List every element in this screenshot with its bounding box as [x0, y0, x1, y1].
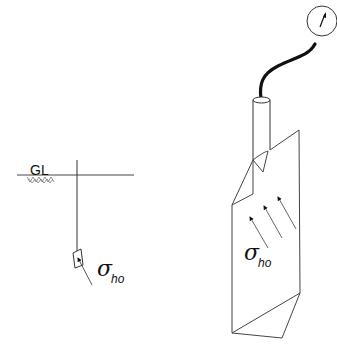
diagram-canvas — [0, 0, 337, 348]
pressure-gauge-icon — [307, 6, 337, 36]
sigma-subscript: ho — [111, 272, 124, 286]
sigma-symbol: σ — [244, 240, 259, 265]
cable — [260, 44, 315, 99]
ground-level-label: GL — [30, 163, 49, 177]
rod-cylinder — [253, 97, 270, 160]
sigma-subscript: ho — [258, 256, 271, 270]
sigma-symbol: σ — [97, 256, 112, 281]
horizontal-stress-label-right: σho — [244, 242, 272, 264]
dilatometer-blade — [232, 130, 300, 338]
small-probe-icon — [73, 249, 92, 285]
horizontal-stress-label-left: σho — [97, 258, 125, 280]
